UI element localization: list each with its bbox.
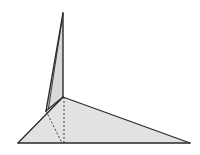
base-triangle-face	[18, 97, 190, 143]
polyhedron-diagram	[0, 0, 200, 155]
